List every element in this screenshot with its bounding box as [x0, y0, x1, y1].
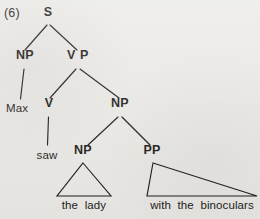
node-s: S — [44, 6, 53, 19]
figure-canvas: (6) S NP V P V NP NP PP Max saw the lady… — [0, 0, 260, 219]
edge-vp-to-np-object — [80, 69, 119, 98]
leaf-saw: saw — [37, 150, 58, 162]
edge-s-to-vp — [50, 25, 77, 50]
node-np-subject: NP — [16, 49, 34, 62]
node-np-object: NP — [111, 97, 129, 110]
triangle-pp — [147, 163, 257, 196]
edge-vp-to-v — [50, 69, 76, 98]
edge-np-object-to-pp — [122, 117, 150, 145]
tree-edges-and-triangles — [0, 0, 260, 219]
edge-s-to-np-subject — [25, 25, 47, 50]
edge-np-subject-to-max — [21, 69, 25, 99]
node-np-inner: NP — [74, 144, 92, 157]
node-pp: PP — [143, 144, 160, 157]
leaf-the-lady: the lady — [62, 200, 106, 212]
edge-v-to-saw — [48, 117, 49, 145]
triangle-np-inner — [57, 163, 111, 196]
leaf-max: Max — [6, 103, 28, 115]
leaf-with-the-binoculars: with the binoculars — [150, 200, 254, 212]
edge-np-object-to-np-inner — [88, 117, 118, 145]
node-vp: V P — [67, 49, 89, 62]
node-v: V — [45, 97, 54, 110]
